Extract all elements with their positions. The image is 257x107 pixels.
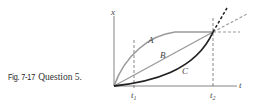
curve-c-label: C: [182, 66, 189, 76]
t1-label: t1: [131, 90, 137, 101]
x-axis-label: t: [239, 80, 242, 90]
position-time-graph: x t t1 t2 A B C: [0, 0, 257, 107]
y-axis-label: x: [110, 7, 115, 17]
t2-label: t2: [210, 90, 216, 101]
curve-a-label: A: [147, 35, 154, 45]
curve-b-label: B: [160, 50, 166, 60]
